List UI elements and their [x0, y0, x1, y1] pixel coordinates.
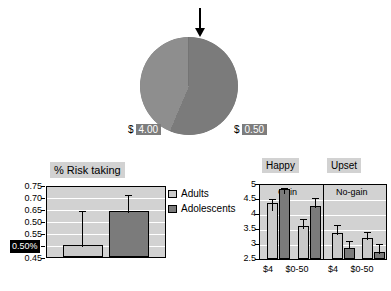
- y-tick-label: 0.50: [10, 218, 42, 227]
- pie-chart: [140, 37, 238, 135]
- gridline: [47, 198, 165, 199]
- error-cap-adults: [269, 199, 276, 200]
- legend-swatch-adolescents: [168, 205, 177, 213]
- pie-label-right: $0.50: [234, 123, 267, 136]
- y-tick-label: 3: [232, 239, 256, 248]
- x-tick-label: $4: [321, 264, 345, 274]
- pie-label-left: $4.00: [128, 123, 161, 136]
- y-tickmark: [41, 234, 45, 235]
- currency-symbol-left: $: [128, 124, 136, 135]
- pie-figure: $4.00 $0.50: [118, 8, 288, 140]
- pie-wedges: [140, 37, 238, 135]
- right-plot-area: Gain No-gain: [259, 184, 387, 260]
- y-tick-label: 2.5: [232, 254, 256, 263]
- panel-divider: [323, 185, 324, 259]
- pie-amount-right: 0.50: [242, 124, 267, 135]
- y-tickmark: [41, 258, 45, 259]
- down-arrow-icon: [194, 8, 206, 38]
- bar-adults: [267, 203, 278, 259]
- arrow-head: [195, 28, 205, 37]
- error-bar-adults: [337, 225, 338, 235]
- bar-adults: [362, 238, 373, 259]
- left-plot-area: [46, 186, 166, 258]
- bar-adolescents: [344, 248, 355, 259]
- error-cap-adults: [364, 232, 371, 233]
- bar-adults: [63, 245, 103, 257]
- legend-swatch-adults: [168, 190, 177, 198]
- error-cap-adolescents: [346, 241, 353, 242]
- legend-label-adults: Adults: [181, 188, 209, 200]
- x-tick-label: $0-50: [347, 264, 377, 274]
- left-bar-chart: % Risk taking 0.75 0.70 0.65 0.50 0.55 0…: [8, 162, 183, 287]
- pie-seam: [188, 37, 189, 86]
- pie-value-labels: $4.00 $0.50: [118, 123, 288, 139]
- y-tickmark: [41, 246, 45, 247]
- bar-adolescents: [279, 189, 290, 259]
- panel-label-no-gain: No-gain: [334, 187, 370, 197]
- legend-label-adolescents: Adolescents: [181, 203, 235, 215]
- bar-adults: [332, 233, 343, 259]
- y-tick-label: 4: [232, 209, 256, 218]
- y-tick-label: 0.65: [10, 206, 42, 215]
- bar-adolescents: [310, 206, 321, 259]
- panel-header-happy: Happy: [262, 158, 299, 173]
- error-bar-adolescents: [349, 241, 350, 249]
- error-bar-adults: [82, 211, 83, 247]
- error-bar-adults: [272, 199, 273, 211]
- y-tick-label: 0.70: [10, 194, 42, 203]
- y-tick-label: 4.5: [232, 194, 256, 203]
- error-bar-adolescents: [379, 244, 380, 254]
- y-tick-label: 0.55: [10, 230, 42, 239]
- error-cap-adolescents: [281, 188, 288, 189]
- left-chart-title: % Risk taking: [50, 162, 125, 178]
- error-cap-adults: [334, 225, 341, 226]
- arrow-shaft: [199, 8, 201, 30]
- bar-adults: [298, 226, 309, 259]
- error-cap-adults: [300, 219, 307, 220]
- y-tick-label: 3.5: [232, 224, 256, 233]
- pie-amount-left: 4.00: [136, 124, 161, 135]
- y-tickmark: [41, 210, 45, 211]
- bar-adolescents: [109, 211, 149, 257]
- y-tick-label: 0.75: [10, 182, 42, 191]
- error-bar-adolescents: [315, 198, 316, 208]
- y-tickmark: [41, 222, 45, 223]
- error-cap-adolescents: [312, 198, 319, 199]
- right-bar-chart: Happy Upset 5 4.5 4 3.5 3 2.5 Gain No-ga…: [232, 158, 391, 291]
- error-bar-adults: [303, 219, 304, 229]
- error-cap-adults: [79, 211, 86, 212]
- currency-symbol-right: $: [234, 124, 242, 135]
- panel-header-upset: Upset: [327, 158, 361, 173]
- error-cap-adolescents: [125, 195, 132, 196]
- y-tickmark: [41, 186, 45, 187]
- error-bar-adults: [367, 232, 368, 240]
- error-cap-adolescents: [376, 244, 383, 245]
- highlighted-value-label: 0.50%: [10, 240, 40, 253]
- x-tick-label: $0-50: [282, 264, 312, 274]
- y-tick-label: 0.45: [10, 254, 42, 263]
- error-bar-adolescents: [128, 195, 129, 213]
- y-tickmark: [41, 198, 45, 199]
- y-tick-label: 5: [232, 180, 256, 189]
- x-tick-label: $4: [256, 264, 280, 274]
